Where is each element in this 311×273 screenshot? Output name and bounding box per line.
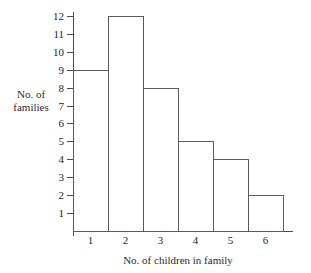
y-axis-tick-label: 8 <box>42 83 64 94</box>
y-axis-tick-label: 5 <box>42 136 64 147</box>
bar <box>178 141 214 232</box>
y-axis-tick-label: 12 <box>42 11 64 22</box>
y-axis-tick-label: 2 <box>42 190 64 201</box>
y-axis-tick-label: 3 <box>42 172 64 183</box>
y-axis-tick-label: 1 <box>42 208 64 219</box>
bar <box>73 70 109 232</box>
x-axis-title: No. of children in family <box>63 254 293 267</box>
y-axis-tick-label: 11 <box>42 29 64 40</box>
bar <box>108 16 144 232</box>
y-axis-tick-label-wrap: 10 <box>42 52 64 53</box>
x-axis-tick-label: 1 <box>73 234 109 247</box>
y-axis-tick-label-wrap: 3 <box>42 177 64 178</box>
y-axis-tick-label-wrap: 5 <box>42 141 64 142</box>
y-axis-tick-label: 10 <box>42 47 64 58</box>
y-axis-tick-label-wrap: 8 <box>42 88 64 89</box>
x-axis-tick-label: 4 <box>178 234 214 247</box>
y-axis-tick-label: 4 <box>42 154 64 165</box>
y-axis-tick-label-wrap: 1 <box>42 213 64 214</box>
bar <box>143 88 179 232</box>
x-axis-tick-label: 5 <box>213 234 249 247</box>
y-axis-tick-mark <box>67 52 73 53</box>
y-axis-tick-label-wrap: 7 <box>42 106 64 107</box>
y-axis-tick-label: 7 <box>42 101 64 112</box>
y-axis-tick-label-wrap: 9 <box>42 70 64 71</box>
y-axis-tick-label-wrap: 12 <box>42 16 64 17</box>
x-axis-tick-label: 3 <box>143 234 179 247</box>
x-axis-tick-label: 2 <box>108 234 144 247</box>
bar <box>248 195 284 232</box>
y-axis-tick-label-wrap: 2 <box>42 195 64 196</box>
y-axis-tick-label-wrap: 6 <box>42 123 64 124</box>
y-axis-tick-label: 9 <box>42 65 64 76</box>
y-axis-tick-label-wrap: 4 <box>42 159 64 160</box>
bar <box>213 159 249 232</box>
histogram-figure: No. of families 121110987654321123456 No… <box>0 0 311 273</box>
x-axis-tick-label: 6 <box>248 234 284 247</box>
y-axis-tick-label: 6 <box>42 118 64 129</box>
y-axis-tick-mark <box>67 16 73 17</box>
y-axis-tick-mark <box>67 34 73 35</box>
y-axis-tick-label-wrap: 11 <box>42 34 64 35</box>
